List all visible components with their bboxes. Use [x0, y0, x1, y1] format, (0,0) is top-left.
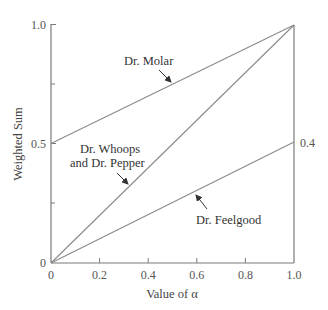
x-tick-label: 0	[48, 268, 54, 282]
y-tick-label: 0.5	[31, 137, 46, 151]
annotation-label-pepper: and Dr. Pepper	[70, 156, 145, 170]
x-tick-label: 0.6	[189, 268, 204, 282]
annotation-molar: Dr. Molar	[124, 54, 174, 82]
y-axis-title: Weighted Sum	[11, 107, 25, 181]
y-tick-label: 0	[40, 256, 46, 270]
y-tick-labels: 1.0 0.5 0	[31, 18, 46, 270]
annotation-feelgood: Dr. Feelgood	[196, 195, 262, 227]
right-axis-value-label: 0.4	[300, 136, 315, 150]
annotation-whoops-pepper: Dr. Whoops and Dr. Pepper	[70, 142, 145, 184]
annotation-label-feelgood: Dr. Feelgood	[196, 213, 262, 227]
y-tick-label: 1.0	[31, 18, 46, 32]
chart: 1.0 0.5 0 0 0.2 0.4 0.6 0.8 1.0 Value of…	[0, 0, 328, 310]
annotation-label-molar: Dr. Molar	[124, 54, 174, 68]
x-tick-labels: 0 0.2 0.4 0.6 0.8 1.0	[48, 268, 302, 282]
series-line-molar	[51, 25, 294, 144]
arrow-icon	[196, 195, 207, 209]
arrow-icon	[117, 173, 128, 184]
x-tick-label: 0.2	[92, 268, 107, 282]
x-tick-label: 1.0	[287, 268, 302, 282]
arrow-icon	[159, 70, 171, 82]
x-tick-label: 0.4	[141, 268, 156, 282]
annotation-label-whoops: Dr. Whoops	[80, 142, 140, 156]
x-axis-title: Value of α	[146, 287, 198, 301]
x-tick-label: 0.8	[238, 268, 253, 282]
